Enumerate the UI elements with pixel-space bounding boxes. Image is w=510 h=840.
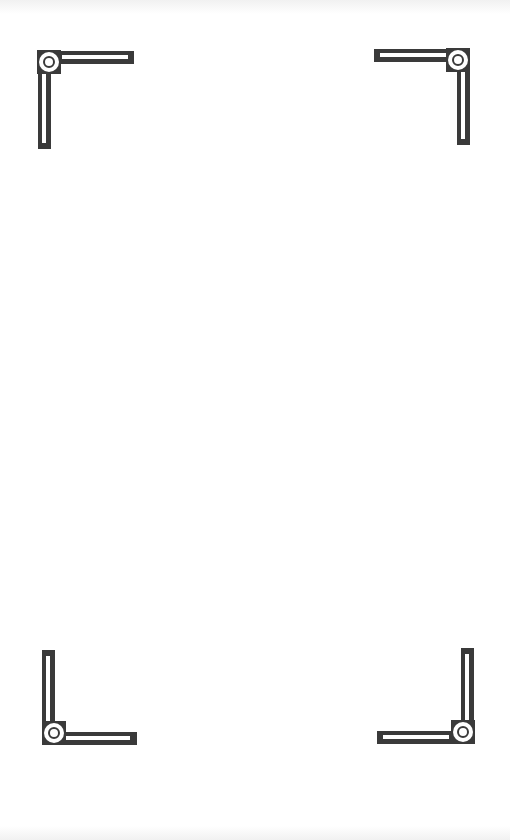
corner-bar-vertical <box>42 650 55 724</box>
corner-bar-vertical <box>457 60 470 145</box>
corner-bar-horizontal <box>60 732 137 745</box>
corner-bracket-icon <box>446 48 470 72</box>
corner-bar-vertical <box>461 648 474 722</box>
corner-bar-horizontal <box>50 51 134 64</box>
corner-bracket-icon <box>451 720 475 744</box>
corner-bracket-icon <box>37 50 61 74</box>
corner-bar-horizontal <box>377 731 455 744</box>
corner-bar-vertical <box>38 63 51 149</box>
page-edge-shadow-top <box>0 0 510 14</box>
corner-bracket-icon <box>42 721 66 745</box>
page-edge-shadow-bottom <box>0 826 510 840</box>
